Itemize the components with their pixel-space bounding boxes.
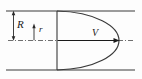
velocity-label: V — [92, 28, 98, 38]
radial-coordinate-label: r — [39, 25, 43, 34]
radius-label: R — [17, 19, 24, 30]
radius-dimension-arrow-bottom — [12, 36, 16, 40]
pipe-velocity-profile-figure: R r V — [0, 0, 142, 79]
figure-canvas — [0, 0, 142, 79]
radial-coordinate-arrowhead — [32, 24, 35, 29]
